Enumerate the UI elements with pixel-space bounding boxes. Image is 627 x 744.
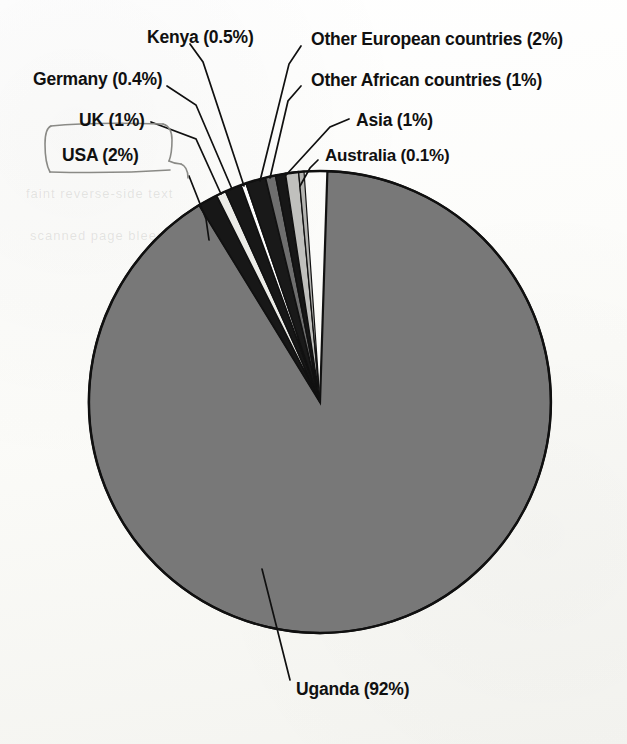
leader-line-kenya [190, 44, 244, 186]
callout-label-australia: Australia (0.1%) [325, 146, 449, 166]
callout-label-other-european: Other European countries (2%) [311, 29, 563, 50]
pie-chart-figure: scanned page bleed-through faint reverse… [0, 0, 627, 744]
leader-line-other-european [260, 46, 301, 181]
callout-label-usa: USA (2%) [62, 145, 139, 166]
callout-label-other-african: Other African countries (1%) [311, 70, 542, 91]
leader-line-uk [151, 122, 221, 194]
callout-label-germany: Germany (0.4%) [33, 69, 162, 90]
callout-label-asia: Asia (1%) [356, 110, 433, 131]
callout-label-kenya: Kenya (0.5%) [147, 27, 254, 48]
pie-slices [89, 171, 551, 633]
callout-label-uk: UK (1%) [79, 110, 145, 131]
callout-label-uganda: Uganda (92%) [296, 679, 409, 700]
leader-line-germany [167, 86, 232, 189]
